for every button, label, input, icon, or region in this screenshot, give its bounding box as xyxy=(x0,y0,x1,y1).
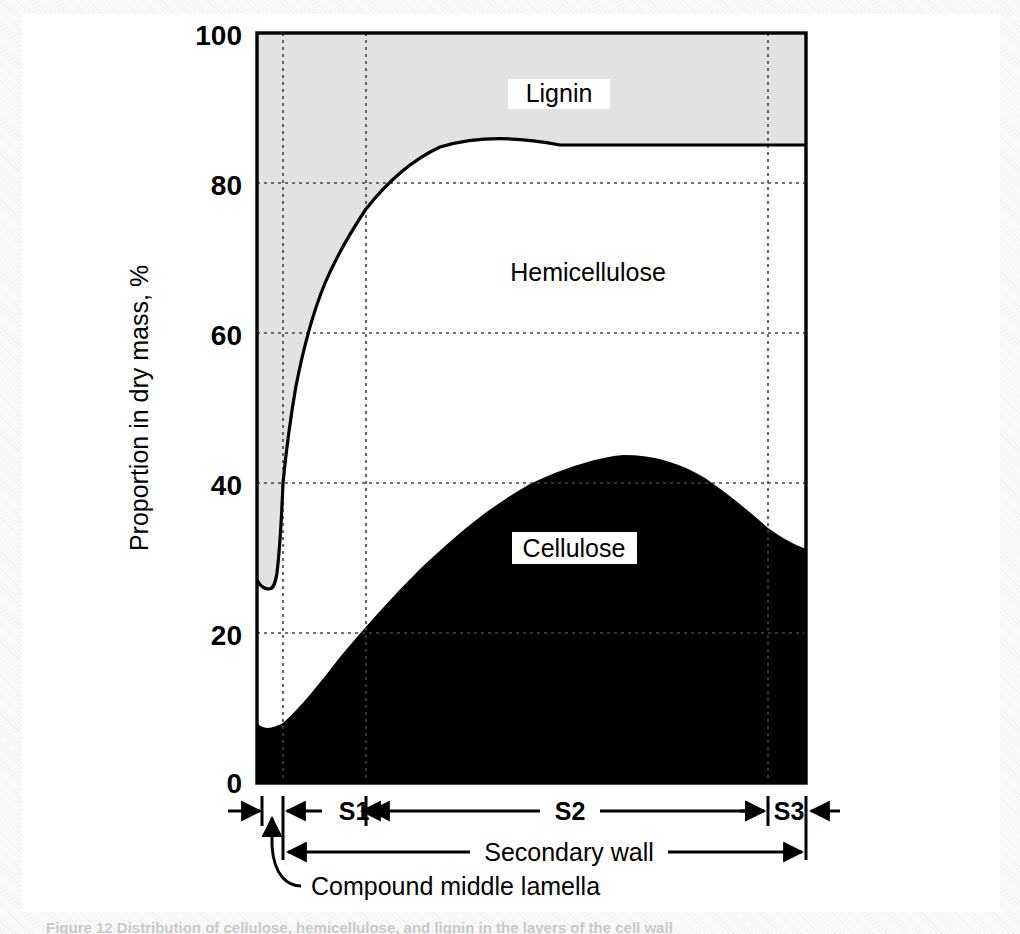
y-tick-80: 80 xyxy=(211,170,242,201)
y-tick-100: 100 xyxy=(195,20,242,51)
y-axis-title: Proportion in dry mass, % xyxy=(125,265,153,551)
s1-label: S1 xyxy=(339,797,370,825)
chart-figure: 100 80 60 40 20 0 Proportion in dry mass… xyxy=(0,0,1020,934)
cellulose-label: Cellulose xyxy=(523,534,626,562)
y-tick-60: 60 xyxy=(211,320,242,351)
chart-svg: 100 80 60 40 20 0 Proportion in dry mass… xyxy=(0,0,1020,934)
figure-caption-strip: Figure 12 Distribution of cellulose, hem… xyxy=(22,920,998,934)
s3-label: S3 xyxy=(774,797,805,825)
compound-middle-lamella-label: Compound middle lamella xyxy=(311,872,600,900)
secondary-wall-label: Secondary wall xyxy=(484,838,654,866)
s2-label: S2 xyxy=(555,797,586,825)
figure-caption: Figure 12 Distribution of cellulose, hem… xyxy=(46,920,673,934)
figure-page: 100 80 60 40 20 0 Proportion in dry mass… xyxy=(0,0,1020,934)
lignin-label: Lignin xyxy=(526,79,593,107)
hemicellulose-label: Hemicellulose xyxy=(510,258,666,286)
plot-area xyxy=(257,33,806,783)
y-axis: 100 80 60 40 20 0 Proportion in dry mass… xyxy=(125,20,242,799)
y-tick-20: 20 xyxy=(211,620,242,651)
y-tick-40: 40 xyxy=(211,470,242,501)
y-tick-0: 0 xyxy=(226,768,242,799)
